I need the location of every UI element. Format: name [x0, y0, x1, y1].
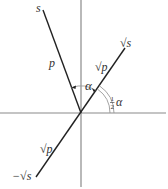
- label-half-alpha-sym: α: [116, 95, 123, 109]
- label-alpha: α: [85, 78, 93, 93]
- label-sqrt-s: √s: [120, 36, 132, 50]
- label-p: p: [48, 56, 55, 70]
- label-s: s: [36, 1, 41, 15]
- label-neg-sqrt-s: −√s: [12, 169, 32, 183]
- label-sqrt-p-upper: √p: [95, 60, 108, 74]
- half-alpha-arc-inner: [98, 89, 111, 113]
- angle-diagram: s p √p √s α 1 2 α √p −√s: [0, 0, 168, 189]
- label-sqrt-p-lower: √p: [40, 142, 53, 156]
- label-half-alpha-den: 2: [111, 103, 115, 111]
